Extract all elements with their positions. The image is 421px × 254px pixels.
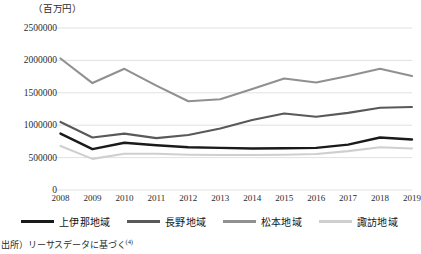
source-footnote: (4) xyxy=(126,238,133,245)
legend-label: 松本地域 xyxy=(261,214,302,229)
source-note: 出所）リーサスデータに基づく(4) xyxy=(1,238,133,251)
series-line xyxy=(61,107,413,138)
legend-color-swatch xyxy=(319,220,352,223)
legend-item[interactable]: 諏訪地域 xyxy=(319,214,398,229)
x-tick-label: 2018 xyxy=(371,193,389,203)
y-tick-label: 1500000 xyxy=(24,88,57,98)
x-tick-label: 2017 xyxy=(339,193,357,203)
x-tick-label: 2010 xyxy=(115,193,133,203)
chart-legend: 上伊那地域長野地域松本地域諏訪地域 xyxy=(0,214,419,229)
legend-color-swatch xyxy=(21,220,54,223)
legend-item[interactable]: 松本地域 xyxy=(223,214,302,229)
y-tick-label: 1000000 xyxy=(24,120,57,130)
y-tick-label: 2500000 xyxy=(24,23,57,33)
source-text: 出所）リーサスデータに基づく xyxy=(1,240,126,250)
legend-label: 長野地域 xyxy=(165,214,206,229)
series-lines xyxy=(61,58,413,158)
legend-color-swatch xyxy=(223,220,256,223)
series-line xyxy=(61,58,413,101)
y-tick-label: 500000 xyxy=(29,153,58,163)
x-tick-label: 2013 xyxy=(211,193,229,203)
x-tick-label: 2014 xyxy=(243,193,261,203)
legend-item[interactable]: 長野地域 xyxy=(127,214,206,229)
legend-color-swatch xyxy=(127,220,160,223)
gridlines xyxy=(56,28,413,190)
x-tick-label: 2012 xyxy=(179,193,197,203)
legend-label: 諏訪地域 xyxy=(357,214,398,229)
legend-item[interactable]: 上伊那地域 xyxy=(21,214,110,229)
x-tick-label: 2008 xyxy=(52,193,70,203)
x-tick-label: 2016 xyxy=(307,193,325,203)
legend-label: 上伊那地域 xyxy=(59,214,110,229)
x-tick-label: 2015 xyxy=(275,193,293,203)
x-tick-label: 2011 xyxy=(148,193,166,203)
x-tick-label: 2019 xyxy=(403,193,421,203)
y-tick-label: 2000000 xyxy=(24,55,57,65)
x-tick-label: 2009 xyxy=(83,193,101,203)
